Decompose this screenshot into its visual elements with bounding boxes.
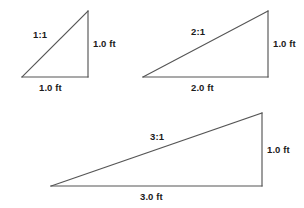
triangle-1-1-hypotenuse [22,11,88,77]
triangle-1-1-shape [22,11,88,77]
triangle-2-1-height-label: 1.0 ft [273,39,296,49]
slope-triangles-figure: 1:1 1.0 ft 1.0 ft 2:1 1.0 ft 2.0 ft 3:1 … [0,0,304,208]
triangle-2-1-shape [143,11,268,77]
triangle-2-1-base-label: 2.0 ft [191,83,214,93]
triangle-3-1-base-label: 3.0 ft [140,192,163,202]
triangle-3-1-hypotenuse [51,113,262,186]
triangle-1-1-ratio-label: 1:1 [33,30,47,40]
triangle-2-1-hypotenuse [143,11,268,77]
triangle-1-1-base-label: 1.0 ft [39,83,62,93]
triangle-2-1-ratio-label: 2:1 [191,27,205,37]
triangle-3-1-shape [51,113,262,186]
triangle-3-1-ratio-label: 3:1 [150,132,164,142]
triangle-3-1-height-label: 1.0 ft [267,145,290,155]
triangle-1-1-height-label: 1.0 ft [93,39,116,49]
